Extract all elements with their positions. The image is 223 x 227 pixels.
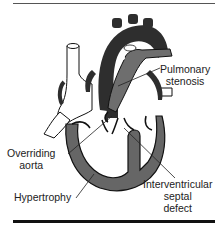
label-line: Interventricular (143, 178, 212, 190)
label-line: Pulmonary (160, 63, 210, 75)
label-line: aorta (7, 159, 55, 171)
label-line: defect (143, 202, 212, 214)
bottom-rule (13, 220, 215, 223)
label-line: septal (143, 190, 212, 202)
label-line: stenosis (160, 75, 210, 87)
label-hypertrophy: Hypertrophy (14, 191, 71, 203)
label-line: Overriding (7, 147, 55, 159)
label-line: Hypertrophy (14, 191, 71, 203)
label-interventricular-septal-defect: Interventricular septal defect (143, 178, 212, 214)
label-pulmonary-stenosis: Pulmonary stenosis (160, 63, 210, 87)
label-overriding-aorta: Overriding aorta (7, 147, 55, 171)
